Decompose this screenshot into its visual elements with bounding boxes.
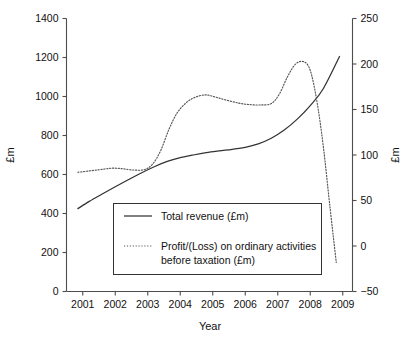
y-axis-left-tick-label: 600 <box>41 168 59 180</box>
chart-legend: Total revenue (£m) Profit/(Loss) on ordi… <box>114 204 322 275</box>
y-axis-right-tick-label: 50 <box>361 194 373 206</box>
x-axis-tick-label: 2002 <box>104 298 128 310</box>
x-axis-tick-label: 2004 <box>169 298 193 310</box>
y-axis-left-tick-label: 1000 <box>35 90 59 102</box>
chart-container: 0200400600800100012001400 −5005010015020… <box>0 0 414 339</box>
x-axis-title: Year <box>199 320 222 332</box>
y-axis-left-tick-label: 1400 <box>35 12 59 24</box>
x-axis-tick-label: 2001 <box>71 298 95 310</box>
x-axis-tick-label: 2007 <box>266 298 290 310</box>
line-chart: 0200400600800100012001400 −5005010015020… <box>0 0 414 339</box>
chart-background <box>0 0 414 339</box>
x-axis-tick-label: 2003 <box>136 298 160 310</box>
x-axis-tick-label: 2006 <box>234 298 258 310</box>
y-axis-right-tick-label: 200 <box>361 58 379 70</box>
x-axis-tick-label: 2009 <box>331 298 355 310</box>
y-axis-left-tick-label: 1200 <box>35 51 59 63</box>
y-axis-left-tick-label: 400 <box>41 207 59 219</box>
x-axis-tick-label: 2005 <box>201 298 225 310</box>
y-axis-left-tick-label: 800 <box>41 129 59 141</box>
y-axis-left-tick-label: 200 <box>41 246 59 258</box>
y-axis-left-title: £m <box>4 147 16 162</box>
legend-label-profit-loss-line2: before taxation (£m) <box>161 254 255 266</box>
y-axis-right-tick-label: 150 <box>361 103 379 115</box>
y-axis-right-title: £m <box>389 147 401 162</box>
y-axis-right-tick-label: 0 <box>361 240 367 252</box>
legend-label-profit-loss-line1: Profit/(Loss) on ordinary activities <box>161 240 316 252</box>
y-axis-right-tick-label: 100 <box>361 149 379 161</box>
y-axis-right-tick-label: 250 <box>361 12 379 24</box>
legend-label-total-revenue: Total revenue (£m) <box>161 210 249 222</box>
x-axis-tick-label: 2008 <box>299 298 323 310</box>
y-axis-left-tick-label: 0 <box>53 285 59 297</box>
y-axis-right-tick-label: −50 <box>361 285 379 297</box>
